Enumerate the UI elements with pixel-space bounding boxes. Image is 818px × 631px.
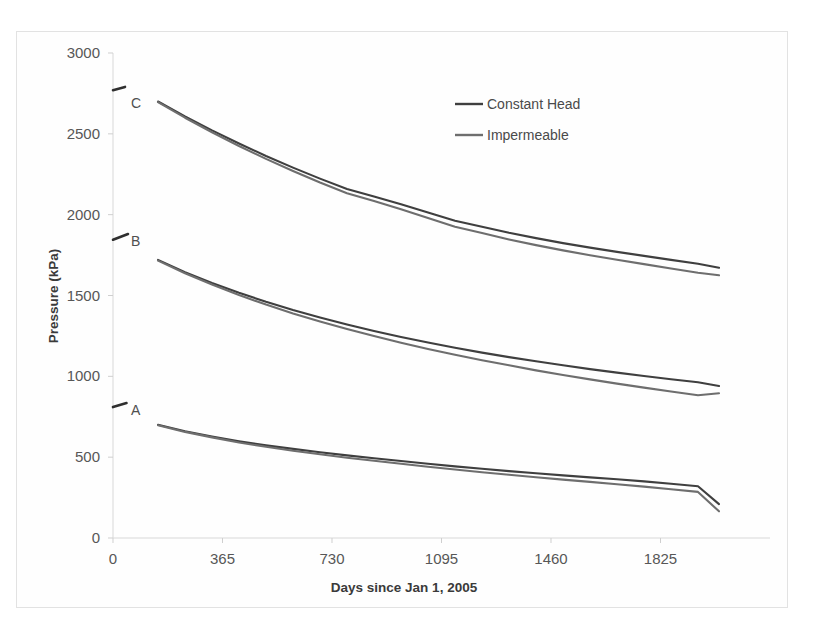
x-tick-label: 1095 [425,550,458,567]
chart-canvas: 050010001500200025003000 036573010951460… [0,0,818,631]
x-tick-label: 1460 [534,550,567,567]
x-tick-label: 1825 [644,550,677,567]
y-tick-label: 1500 [67,287,100,304]
y-tick-label: 0 [92,529,100,546]
curve-group-label-c: C [131,95,141,111]
curve-group-label-a: A [131,402,141,418]
y-tick-label: 3000 [67,44,100,61]
y-tick-label: 500 [75,448,100,465]
axis-stub-a [113,403,127,407]
legend-label-0[interactable]: Constant Head [487,96,580,112]
axis-stub-c [113,87,125,90]
series-line-a-impermeable [158,425,719,511]
axis-stub-marks [113,87,128,407]
legend-label-1[interactable]: Impermeable [487,127,569,143]
x-axis-title: Days since Jan 1, 2005 [331,580,478,595]
y-tick-label: 2000 [67,206,100,223]
axis-stub-b [113,234,128,240]
curve-group-labels: ABC [131,95,141,418]
curve-group-label-b: B [131,233,140,249]
series-line-c-impermeable [158,102,719,275]
x-tick-label: 730 [319,550,344,567]
y-axis-title: Pressure (kPa) [46,249,61,344]
y-tick-label: 1000 [67,367,100,384]
series-line-b-constant-head [158,260,719,386]
x-tick-label: 365 [210,550,235,567]
y-tick-labels: 050010001500200025003000 [67,44,100,546]
y-axis [108,53,113,538]
chart-figure: 050010001500200025003000 036573010951460… [0,0,818,631]
chart-legend[interactable]: Constant HeadImpermeable [455,96,580,143]
series-line-a-constant-head [158,425,719,504]
x-tick-label: 0 [109,550,117,567]
series-lines [158,102,719,512]
x-tick-labels: 0365730109514601825 [109,550,677,567]
series-line-c-constant-head [158,102,719,268]
y-tick-label: 2500 [67,125,100,142]
x-axis [113,538,770,543]
